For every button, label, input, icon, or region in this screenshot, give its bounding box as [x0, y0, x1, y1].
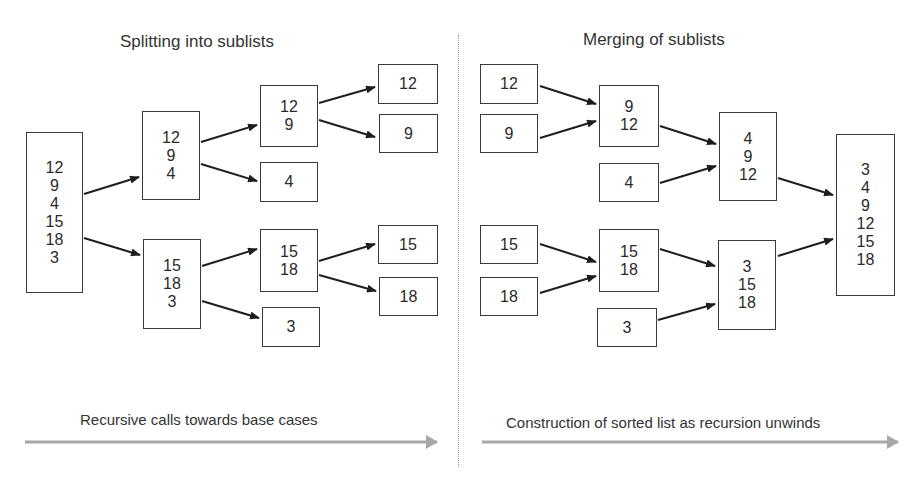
right-caption: Construction of sorted list as recursion… — [506, 414, 820, 431]
split-arrows — [84, 87, 376, 318]
left-caption: Recursive calls towards base cases — [80, 411, 318, 428]
merge-arrows — [540, 86, 833, 320]
